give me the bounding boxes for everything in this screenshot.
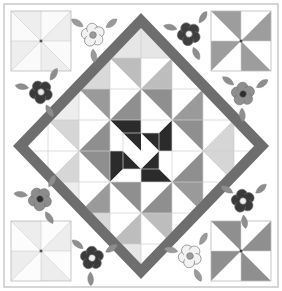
pinwheel-hub bbox=[240, 250, 243, 253]
center-pinwheel bbox=[123, 133, 159, 169]
pinwheel-hub bbox=[40, 250, 43, 253]
top-left corner pinwheel bbox=[11, 11, 71, 71]
quilt-block-canvas bbox=[0, 0, 282, 291]
pinwheel-hub bbox=[240, 40, 243, 43]
bottom-left corner pinwheel bbox=[11, 221, 71, 281]
bottom-right corner pinwheel bbox=[211, 221, 271, 281]
pinwheel-hub bbox=[40, 40, 43, 43]
quilt-block-artwork bbox=[0, 0, 282, 291]
top-right corner pinwheel bbox=[211, 11, 271, 71]
